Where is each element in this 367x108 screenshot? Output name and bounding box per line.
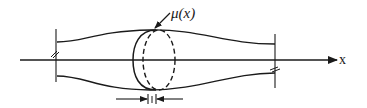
tube-upper-wall [57,30,275,44]
tube-diagram: μ(x) x [0,0,367,108]
left-break-mark [51,51,59,58]
tube-lower-wall [57,73,275,90]
slice-label: μ(x) [171,5,195,22]
axis-label: x [339,52,346,68]
mu-pointer-arrow [155,13,170,28]
